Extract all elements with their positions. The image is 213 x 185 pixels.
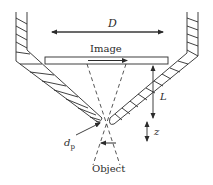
d-label: D xyxy=(107,17,117,30)
probe-diagram: D Image L z dp Object xyxy=(0,0,213,185)
l-label: L xyxy=(159,91,167,102)
image-label: Image xyxy=(90,43,122,54)
object-label: Object xyxy=(92,163,125,174)
dp-pointer-arrow xyxy=(76,123,100,135)
right-wall xyxy=(110,12,199,124)
projection-lines xyxy=(87,64,126,165)
z-label: z xyxy=(153,126,160,137)
dp-label: dp xyxy=(64,137,75,151)
left-wall xyxy=(16,12,102,123)
